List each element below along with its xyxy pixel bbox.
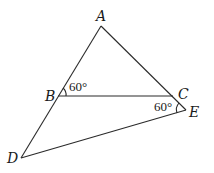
point-label-A: A [94,8,106,24]
angle-arc-B [63,88,66,96]
point-label-C: C [178,86,189,102]
angle-label-E: 60° [154,99,172,114]
segment-AE [101,26,186,110]
angle-label-B: 60° [69,79,87,94]
point-label-D: D [6,150,18,166]
point-label-B: B [44,88,55,104]
point-label-E: E [188,104,199,120]
angle-arc-E [176,103,179,113]
geometry-diagram: A B C E D 60° 60° [0,0,214,173]
